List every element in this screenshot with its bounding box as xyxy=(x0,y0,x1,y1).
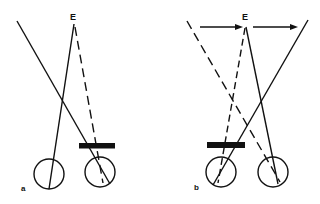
crossing-line-a xyxy=(17,21,110,184)
panel-label-b: b xyxy=(194,183,199,192)
crossing-line-b xyxy=(213,20,308,185)
dashed-crossing-line-b xyxy=(187,21,280,182)
diagram: E a E b xyxy=(0,0,320,204)
occluder-bar-b xyxy=(207,142,245,148)
point-e-label-a: E xyxy=(70,12,76,22)
arrow-right-head-1-icon xyxy=(235,24,243,30)
dashed-line-of-sight-b xyxy=(218,28,245,183)
arrow-right-head-2-icon xyxy=(290,24,298,30)
right-eye-a xyxy=(85,157,115,187)
occluder-bar-a xyxy=(79,143,115,149)
solid-line-of-sight-a xyxy=(49,24,74,189)
dashed-line-a xyxy=(75,27,103,183)
panel-a: E a xyxy=(17,12,115,193)
panel-b: E b xyxy=(187,12,308,192)
point-e-label-b: E xyxy=(242,12,248,22)
panel-label-a: a xyxy=(21,184,26,193)
solid-line-of-sight-b xyxy=(246,27,278,184)
